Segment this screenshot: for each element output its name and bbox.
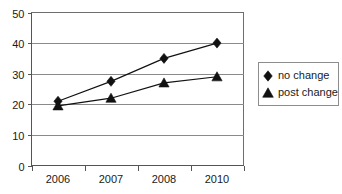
x-tick-label: 2008: [152, 173, 176, 185]
data-point-marker: [107, 76, 115, 86]
y-tick-label: 50: [12, 8, 24, 20]
y-axis: 01020304050: [12, 8, 243, 173]
series-line: [58, 43, 217, 101]
series-line: [58, 77, 217, 106]
legend-label: no change: [278, 69, 329, 81]
data-point-marker: [160, 53, 168, 63]
chart-legend: no changepost change: [259, 63, 339, 106]
plot-frame: [32, 13, 244, 166]
x-tick-label: 2006: [46, 173, 70, 185]
x-tick-label: 2007: [99, 173, 123, 185]
data-point-marker: [212, 72, 222, 81]
data-point-marker: [213, 38, 221, 48]
x-axis: 2006200720082010: [33, 166, 245, 185]
legend-label: post change: [278, 86, 338, 98]
chart-canvas: 01020304050 2006200720082010 no changepo…: [0, 0, 342, 194]
y-tick-label: 40: [12, 38, 24, 50]
line-chart: 01020304050 2006200720082010 no changepo…: [0, 0, 342, 194]
y-tick-label: 10: [12, 130, 24, 142]
y-tick-label: 20: [12, 99, 24, 111]
y-tick-label: 0: [18, 161, 24, 173]
x-tick-label: 2010: [205, 173, 229, 185]
data-series: [54, 38, 221, 106]
y-tick-label: 30: [12, 69, 24, 81]
